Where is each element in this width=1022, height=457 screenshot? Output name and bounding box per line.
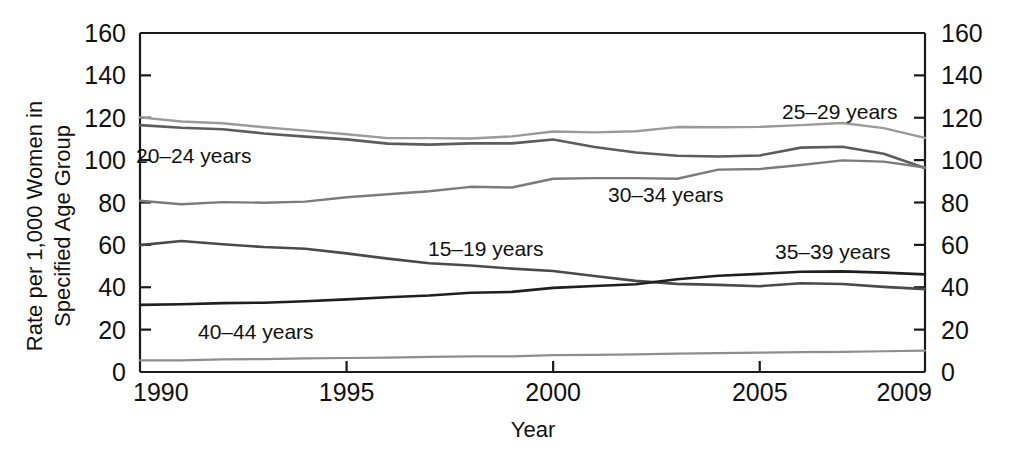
series-line-30-34-years bbox=[140, 160, 925, 204]
series-label-20-24-years: 20–24 years bbox=[136, 144, 252, 167]
series-label-15-19-years: 15–19 years bbox=[428, 237, 544, 260]
x-axis-tick-labels: 19901995200020052009 bbox=[133, 378, 932, 406]
y-axis-right-tick-label: 40 bbox=[941, 273, 969, 301]
x-axis-tick-label: 1990 bbox=[133, 378, 189, 406]
chart-plot-area: 020406080100120140160 020406080100120140… bbox=[0, 0, 1022, 457]
y-axis-right-tick-label: 160 bbox=[941, 19, 983, 47]
y-axis-left-tick-label: 0 bbox=[112, 358, 126, 386]
y-axis-left-tick-label: 60 bbox=[98, 231, 126, 259]
series-label-25-29-years: 25–29 years bbox=[782, 100, 898, 123]
series-line-40-44-years bbox=[140, 351, 925, 361]
y-axis-left-tick-label: 100 bbox=[84, 146, 126, 174]
y-axis-right-tick-label: 20 bbox=[941, 316, 969, 344]
y-axis-right-tick-label: 140 bbox=[941, 61, 983, 89]
y-axis-left-tick-label: 20 bbox=[98, 316, 126, 344]
y-axis-right-tick-label: 60 bbox=[941, 231, 969, 259]
y-axis-left-tick-label: 40 bbox=[98, 273, 126, 301]
y-axis-left-tick-label: 160 bbox=[84, 19, 126, 47]
y-axis-left-tick-labels: 020406080100120140160 bbox=[84, 19, 126, 386]
y-axis-right-tick-label: 120 bbox=[941, 104, 983, 132]
x-axis-tick-label: 2000 bbox=[525, 378, 581, 406]
y-axis-right-tick-labels: 020406080100120140160 bbox=[941, 19, 983, 386]
y-axis-right-tick-label: 80 bbox=[941, 189, 969, 217]
x-axis-tick-label: 2005 bbox=[732, 378, 788, 406]
x-axis-tick-label: 2009 bbox=[876, 378, 932, 406]
y-axis-title-line-2: Specified Age Group bbox=[50, 125, 75, 327]
x-axis-title: Year bbox=[511, 417, 555, 442]
series-label-30-34-years: 30–34 years bbox=[608, 183, 724, 206]
series-line-35-39-years bbox=[140, 271, 925, 304]
birth-rate-line-chart: 020406080100120140160 020406080100120140… bbox=[0, 0, 1022, 457]
y-axis-title-line-1: Rate per 1,000 Women in bbox=[22, 101, 47, 351]
x-axis-tick-label: 1995 bbox=[319, 378, 375, 406]
y-axis-left-tick-label: 140 bbox=[84, 61, 126, 89]
y-axis-left-tick-label: 80 bbox=[98, 189, 126, 217]
series-label-40-44-years: 40–44 years bbox=[198, 320, 314, 343]
y-axis-right-tick-label: 0 bbox=[941, 358, 955, 386]
series-label-35-39-years: 35–39 years bbox=[775, 240, 891, 263]
series-line-20-24-years bbox=[140, 125, 925, 168]
y-axis-right-tick-label: 100 bbox=[941, 146, 983, 174]
y-axis-left-tick-label: 120 bbox=[84, 104, 126, 132]
